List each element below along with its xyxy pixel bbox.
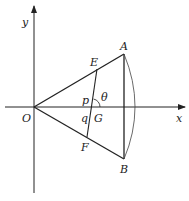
- x-axis-label: x: [176, 112, 183, 125]
- angle-theta-label: θ: [101, 91, 108, 104]
- segment-OA: [34, 54, 124, 107]
- point-E-label: E: [89, 56, 98, 69]
- y-axis-label: y: [21, 16, 29, 29]
- point-F-label: F: [80, 141, 89, 154]
- geometry-diagram: y x O A B E F G p q θ: [0, 0, 189, 201]
- segment-OB: [34, 107, 124, 159]
- segment-q-label: q: [81, 112, 88, 125]
- point-B-label: B: [119, 163, 128, 176]
- point-O-label: O: [22, 112, 31, 125]
- point-A-label: A: [119, 40, 128, 53]
- segment-p-label: p: [82, 94, 89, 107]
- angle-theta-arc: [94, 99, 101, 107]
- point-G-label: G: [94, 112, 103, 125]
